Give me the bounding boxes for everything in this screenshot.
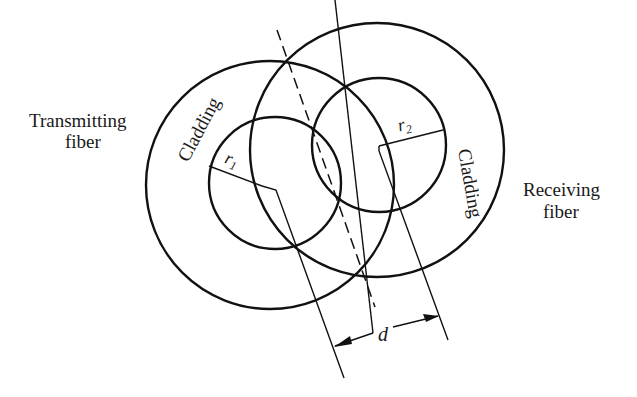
receiving-core-circle: [312, 78, 446, 212]
d-arrowhead-right: [423, 314, 439, 322]
r2-label: r2: [395, 113, 413, 138]
r1-radius-line: [209, 166, 262, 186]
transmitting-fiber-label-line2: fiber: [65, 131, 102, 152]
receiving-fiber-label-line2: fiber: [543, 201, 580, 222]
d-label: d: [378, 323, 389, 345]
fiber-offset-diagram: Transmitting fiber Receiving fiber Cladd…: [0, 0, 637, 397]
transmitting-fiber-label-line1: Transmitting: [29, 110, 127, 131]
d-arrowhead-left: [334, 336, 352, 347]
d-dimension-line-left: [335, 0, 373, 333]
receiving-fiber-label-line1: Receiving: [523, 179, 601, 200]
cladding-label-right: Cladding: [454, 147, 487, 220]
transmitting-core-circle: [209, 117, 341, 249]
r1-label: r1: [221, 147, 241, 173]
